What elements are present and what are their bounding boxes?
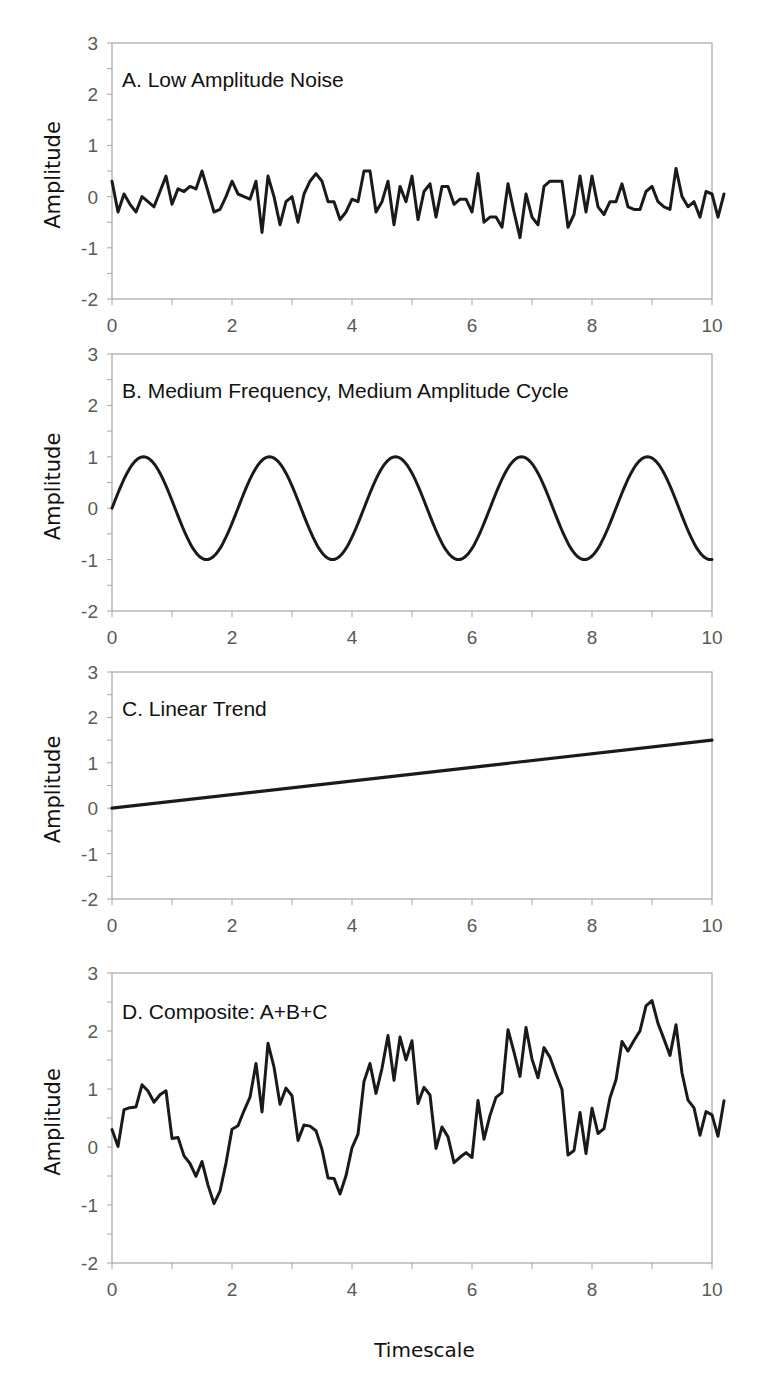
y-axis-title: Amplitude — [41, 433, 65, 541]
y-tick-label: 0 — [87, 798, 98, 819]
panel-title: D. Composite: A+B+C — [122, 1000, 327, 1023]
x-tick-label: 4 — [347, 915, 358, 936]
x-tick-label: 0 — [107, 315, 118, 336]
y-tick-label: 1 — [87, 1079, 98, 1100]
x-tick-label: 6 — [467, 627, 478, 648]
y-tick-label: -2 — [81, 1253, 98, 1274]
y-tick-label: -2 — [81, 289, 98, 310]
panel-title: A. Low Amplitude Noise — [122, 68, 344, 91]
y-axis-title: Amplitude — [41, 736, 65, 844]
x-tick-label: 8 — [587, 915, 598, 936]
x-tick-label: 2 — [227, 627, 238, 648]
y-tick-label: 0 — [87, 498, 98, 519]
x-axis-title: Timescale — [0, 1338, 759, 1362]
y-tick-label: -2 — [81, 601, 98, 622]
y-tick-label: 3 — [87, 33, 98, 54]
x-tick-label: 4 — [347, 1279, 358, 1300]
x-tick-label: 2 — [227, 315, 238, 336]
x-tick-label: 10 — [701, 627, 722, 648]
y-tick-label: 1 — [87, 135, 98, 156]
x-tick-label: 0 — [107, 915, 118, 936]
y-tick-label: 3 — [87, 963, 98, 984]
x-tick-label: 0 — [107, 627, 118, 648]
data-line — [112, 1001, 724, 1204]
panel-a-noise: 3210-1-20246810AmplitudeA. Low Amplitude… — [41, 33, 724, 336]
x-tick-label: 8 — [587, 1279, 598, 1300]
y-axis-title: Amplitude — [41, 1068, 65, 1176]
x-tick-label: 2 — [227, 915, 238, 936]
y-tick-label: 3 — [87, 662, 98, 683]
x-tick-label: 8 — [587, 627, 598, 648]
x-tick-label: 4 — [347, 315, 358, 336]
panel-title: C. Linear Trend — [122, 697, 267, 720]
x-tick-label: 10 — [701, 1279, 722, 1300]
x-tick-label: 10 — [701, 315, 722, 336]
panel-c-trend: 3210-1-20246810AmplitudeC. Linear Trend — [41, 662, 723, 936]
y-axis-title: Amplitude — [41, 121, 65, 229]
y-tick-label: -1 — [81, 238, 98, 259]
data-line — [112, 168, 724, 237]
data-line — [112, 457, 712, 560]
y-tick-label: 2 — [87, 1021, 98, 1042]
x-tick-label: 10 — [701, 915, 722, 936]
panel-b-cycle: 3210-1-20246810AmplitudeB. Medium Freque… — [41, 344, 723, 648]
data-line — [112, 740, 712, 808]
x-tick-label: 8 — [587, 315, 598, 336]
x-tick-label: 6 — [467, 315, 478, 336]
y-tick-label: 1 — [87, 447, 98, 468]
panel-title: B. Medium Frequency, Medium Amplitude Cy… — [122, 379, 569, 402]
y-tick-label: 0 — [87, 187, 98, 208]
x-tick-label: 0 — [107, 1279, 118, 1300]
y-tick-label: 2 — [87, 395, 98, 416]
y-tick-label: 1 — [87, 753, 98, 774]
y-tick-label: 3 — [87, 344, 98, 365]
y-tick-label: -1 — [81, 550, 98, 571]
x-tick-label: 2 — [227, 1279, 238, 1300]
x-tick-label: 6 — [467, 1279, 478, 1300]
charts-svg: 3210-1-20246810AmplitudeA. Low Amplitude… — [0, 0, 759, 1381]
y-tick-label: -1 — [81, 844, 98, 865]
panel-d-composite: 3210-1-20246810AmplitudeD. Composite: A+… — [41, 963, 724, 1300]
x-tick-label: 4 — [347, 627, 358, 648]
x-axis-title-text: Timescale — [374, 1338, 474, 1362]
x-tick-label: 6 — [467, 915, 478, 936]
y-tick-label: 0 — [87, 1137, 98, 1158]
y-tick-label: -1 — [81, 1195, 98, 1216]
y-tick-label: -2 — [81, 889, 98, 910]
y-tick-label: 2 — [87, 84, 98, 105]
y-tick-label: 2 — [87, 707, 98, 728]
